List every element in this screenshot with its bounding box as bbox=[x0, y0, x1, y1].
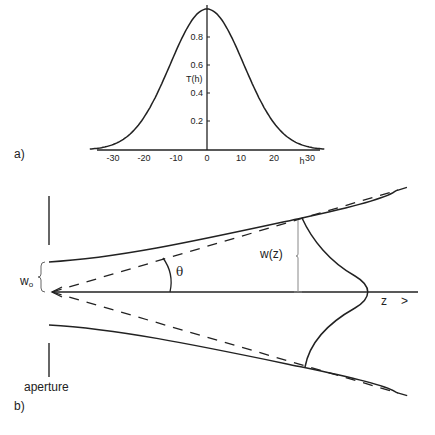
x-tick-neg20: -20 bbox=[137, 153, 150, 163]
axis-direction-arrow: > bbox=[401, 294, 408, 308]
panel-a-plot bbox=[90, 5, 324, 150]
asymptote-lower bbox=[52, 292, 412, 397]
waist-label: wo bbox=[19, 274, 34, 289]
figure-canvas: 0.8 0.6 0.4 0.2 T(h) -30 -20 -10 0 10 20… bbox=[0, 0, 435, 435]
panel-b-label: b) bbox=[14, 399, 25, 413]
width-bracket bbox=[296, 220, 298, 292]
aperture-label: aperture bbox=[24, 380, 69, 394]
x-tick-neg10: -10 bbox=[169, 153, 182, 163]
y-tick-0.4: 0.4 bbox=[190, 88, 203, 98]
waist-brace bbox=[38, 262, 45, 292]
asymptote-upper bbox=[52, 186, 412, 292]
x-tick-neg30: -30 bbox=[106, 153, 119, 163]
y-tick-0.2: 0.2 bbox=[190, 116, 203, 126]
beam-envelope-upper bbox=[49, 190, 398, 262]
y-tick-0.8: 0.8 bbox=[190, 32, 203, 42]
y-axis-label: T(h) bbox=[186, 74, 203, 84]
x-axis-label: h bbox=[299, 156, 304, 166]
y-tick-0.6: 0.6 bbox=[190, 60, 203, 70]
angle-arc bbox=[163, 258, 171, 292]
panel-a-label: a) bbox=[14, 147, 25, 161]
x-tick-10: 10 bbox=[236, 153, 246, 163]
axis-label-z: z bbox=[381, 294, 387, 308]
angle-label: θ bbox=[176, 265, 183, 279]
panel-b-diagram bbox=[38, 186, 418, 397]
x-tick-30: 30 bbox=[305, 153, 315, 163]
x-tick-0: 0 bbox=[204, 153, 209, 163]
width-label: w(z) bbox=[259, 247, 283, 261]
x-tick-20: 20 bbox=[269, 153, 279, 163]
beam-envelope-lower bbox=[49, 325, 398, 393]
